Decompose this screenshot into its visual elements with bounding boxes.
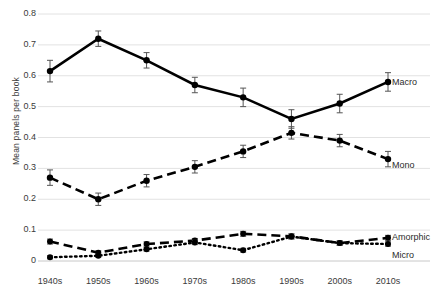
series-mono (47, 127, 391, 206)
series-macro (47, 31, 391, 128)
series-label-macro: Macro (392, 77, 417, 87)
data-point (192, 82, 198, 88)
data-point (47, 68, 53, 74)
data-point (47, 254, 53, 260)
chart-container: Mean panels per book 00.10.20.30.40.50.6… (0, 0, 438, 298)
data-point (144, 246, 150, 252)
data-point (240, 148, 246, 154)
data-point (288, 130, 294, 136)
data-point (385, 79, 391, 85)
data-point (143, 178, 149, 184)
data-point (95, 36, 101, 42)
series-label-amorphic: Amorphic (392, 232, 430, 242)
series-label-micro: Micro (392, 250, 414, 260)
plot-area (0, 0, 438, 298)
data-point (337, 137, 343, 143)
data-point (144, 241, 150, 247)
data-point (95, 253, 101, 259)
data-point (288, 116, 294, 122)
data-point (240, 247, 246, 253)
data-point (385, 156, 391, 162)
data-point (337, 240, 343, 246)
data-point (47, 239, 53, 245)
data-point (240, 94, 246, 100)
data-point (47, 174, 53, 180)
series-label-mono: Mono (392, 160, 415, 170)
data-point (143, 57, 149, 63)
data-point (337, 100, 343, 106)
data-point (288, 234, 294, 240)
data-point (192, 164, 198, 170)
data-point (192, 239, 198, 245)
data-point (385, 235, 391, 241)
data-point (95, 196, 101, 202)
series-line (50, 133, 388, 199)
data-point (385, 241, 391, 247)
data-point (240, 231, 246, 237)
